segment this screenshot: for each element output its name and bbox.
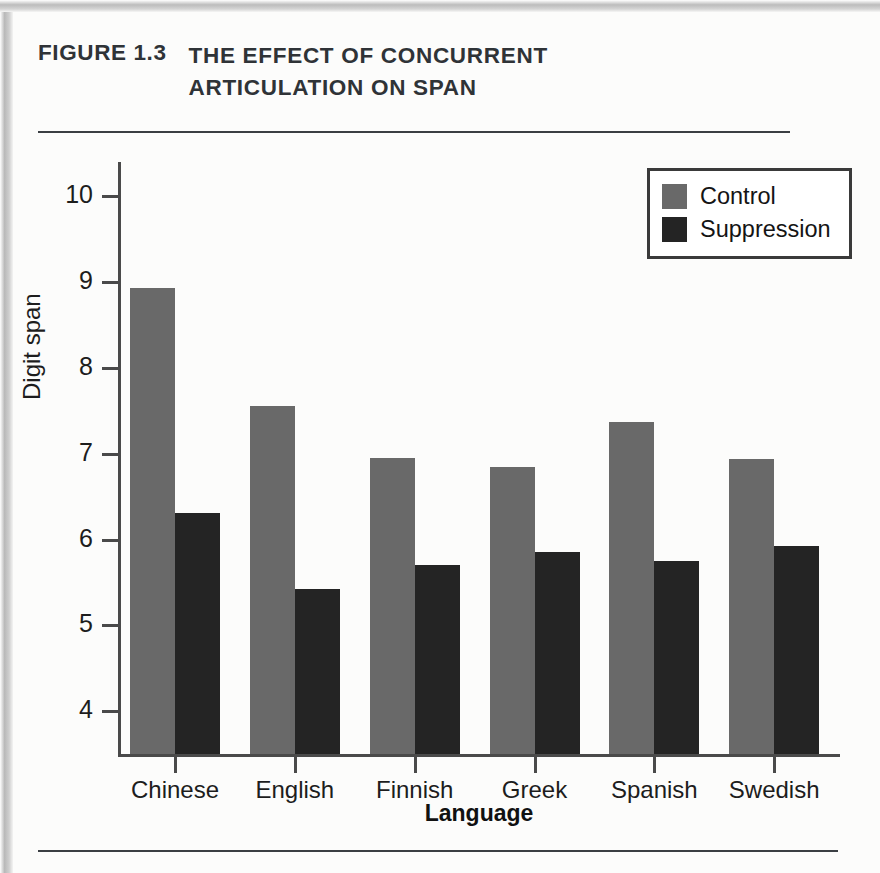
chart-legend: ControlSuppression xyxy=(647,168,852,259)
legend-label-control: Control xyxy=(700,183,776,210)
bar-greek-suppression xyxy=(535,552,580,754)
bar-swedish-control xyxy=(729,459,774,754)
legend-item-suppression: Suppression xyxy=(662,213,831,246)
bar-greek-control xyxy=(490,467,535,754)
y-axis-tick: 4 xyxy=(102,710,121,713)
x-axis-title: Language xyxy=(118,800,840,827)
bar-chinese-suppression xyxy=(175,513,220,754)
y-axis-tick: 5 xyxy=(102,624,121,627)
x-axis-tick xyxy=(773,754,776,773)
y-axis-tick: 10 xyxy=(102,195,121,198)
x-axis-tick xyxy=(294,754,297,773)
y-axis-tick-label: 4 xyxy=(79,695,93,724)
x-axis-tick xyxy=(534,754,537,773)
y-axis-tick: 8 xyxy=(102,367,121,370)
y-axis-tick: 6 xyxy=(102,539,121,542)
bar-swedish-suppression xyxy=(774,546,819,754)
x-axis-tick xyxy=(653,754,656,773)
y-axis-tick: 7 xyxy=(102,453,121,456)
y-axis-title: Digit span xyxy=(18,293,46,400)
bar-english-control xyxy=(250,406,295,754)
legend-label-suppression: Suppression xyxy=(700,216,831,243)
bar-english-suppression xyxy=(295,589,340,754)
legend-swatch-control xyxy=(662,184,687,209)
figure-page: FIGURE 1.3 THE EFFECT OF CONCURRENT ARTI… xyxy=(0,0,880,873)
y-axis-tick-label: 8 xyxy=(79,352,93,381)
bar-chart: Digit span 45678910 ChineseEnglishFinnis… xyxy=(0,0,880,873)
x-axis-tick xyxy=(414,754,417,773)
bar-spanish-control xyxy=(609,422,654,754)
legend-swatch-suppression xyxy=(662,217,687,242)
bar-finnish-suppression xyxy=(415,565,460,754)
y-axis-tick-label: 5 xyxy=(79,609,93,638)
bar-chinese-control xyxy=(130,288,175,754)
y-axis-tick-label: 9 xyxy=(79,266,93,295)
y-axis-tick-label: 10 xyxy=(65,180,93,209)
y-axis-tick: 9 xyxy=(102,281,121,284)
bar-finnish-control xyxy=(370,458,415,754)
legend-item-control: Control xyxy=(662,180,831,213)
y-axis-tick-label: 7 xyxy=(79,438,93,467)
bar-spanish-suppression xyxy=(654,561,699,754)
x-axis-tick xyxy=(174,754,177,773)
y-axis-tick-label: 6 xyxy=(79,524,93,553)
footer-divider-rule xyxy=(38,850,838,852)
